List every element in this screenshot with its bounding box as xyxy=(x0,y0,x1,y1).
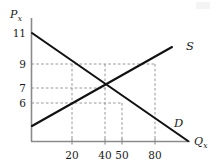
y-axis-title: Px xyxy=(10,9,22,20)
x-axis-title: Qx xyxy=(194,136,207,147)
supply-demand-chart: Px Qx 11 9 7 6 20 40 50 80 S D xyxy=(0,0,216,168)
y-tick-label-7: 7 xyxy=(4,83,26,94)
x-tick-label-20: 20 xyxy=(59,150,85,161)
y-tick-label-11: 11 xyxy=(4,28,26,39)
x-tick-label-50: 50 xyxy=(109,150,135,161)
horizontal-guides xyxy=(32,64,156,103)
y-tick-label-6: 6 xyxy=(4,98,26,109)
y-tick-label-9: 9 xyxy=(4,59,26,70)
corner-artifact xyxy=(196,2,210,9)
supply-curve-label: S xyxy=(186,41,194,53)
x-tick-label-80: 80 xyxy=(142,150,168,161)
demand-curve xyxy=(32,33,188,141)
demand-curve-label: D xyxy=(174,118,183,130)
plot-area xyxy=(0,0,216,168)
